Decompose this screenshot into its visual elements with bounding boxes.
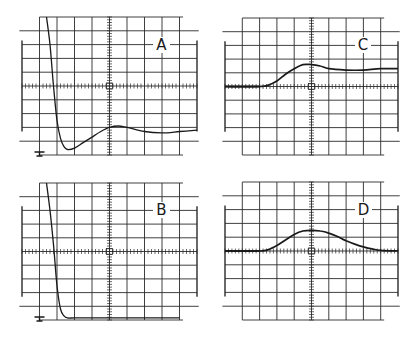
panel-label: D: [355, 202, 373, 218]
scope-panel-d: D: [219, 176, 404, 326]
scope-panel-c: C: [219, 12, 404, 161]
panel-label: C: [355, 37, 371, 53]
scope-panel-a: A: [16, 11, 203, 161]
panel-label: B: [153, 202, 169, 218]
graticule: [219, 176, 404, 326]
graticule: [219, 12, 404, 161]
trace-line: [47, 17, 198, 150]
panel-label: A: [153, 37, 169, 53]
scope-panel-b: B: [16, 177, 203, 326]
graticule: [16, 177, 203, 326]
graticule: [16, 11, 203, 161]
